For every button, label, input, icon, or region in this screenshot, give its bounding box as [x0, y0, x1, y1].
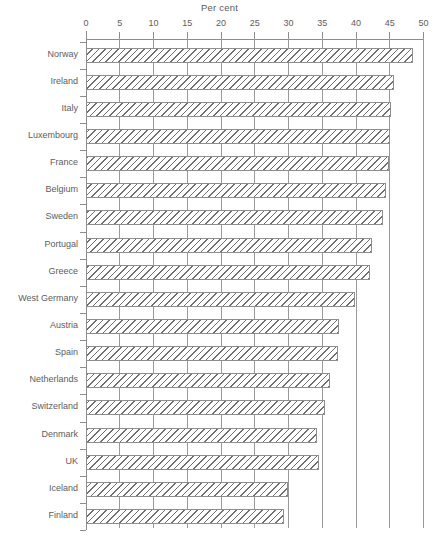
chart-row: Italy — [0, 96, 439, 123]
bar — [86, 102, 391, 117]
chart-row: Portugal — [0, 232, 439, 259]
bar — [86, 75, 394, 90]
bar — [86, 48, 413, 63]
chart-row: West Germany — [0, 286, 439, 313]
bar — [86, 455, 319, 470]
x-tick-label: 45 — [385, 18, 395, 28]
y-tick-mark — [80, 177, 86, 178]
category-label: Italy — [61, 103, 78, 113]
chart-row: Spain — [0, 340, 439, 367]
category-label: Netherlands — [29, 374, 78, 384]
bar — [86, 129, 390, 144]
y-tick-mark — [80, 340, 86, 341]
chart-row: Netherlands — [0, 367, 439, 394]
chart-row: Luxembourg — [0, 123, 439, 150]
category-label: Norway — [47, 49, 78, 59]
category-label: Ireland — [50, 76, 78, 86]
y-tick-mark — [80, 204, 86, 205]
x-tick-label: 0 — [83, 18, 88, 28]
y-tick-mark — [80, 367, 86, 368]
chart-row: Belgium — [0, 177, 439, 204]
category-label: Spain — [55, 347, 78, 357]
category-label: Luxembourg — [28, 130, 78, 140]
bar — [86, 482, 288, 497]
chart-row: Iceland — [0, 476, 439, 503]
y-tick-mark — [80, 232, 86, 233]
x-tick-label: 15 — [182, 18, 192, 28]
chart-row: France — [0, 150, 439, 177]
x-tick-label: 20 — [216, 18, 226, 28]
bar — [86, 346, 338, 361]
chart-row: Greece — [0, 259, 439, 286]
y-tick-mark — [80, 42, 86, 43]
category-label: Finland — [48, 510, 78, 520]
bar — [86, 156, 389, 171]
y-tick-mark — [80, 530, 86, 531]
x-tick-mark — [86, 32, 87, 39]
bar — [86, 183, 386, 198]
category-label: Austria — [50, 320, 78, 330]
x-tick-label: 40 — [351, 18, 361, 28]
bar — [86, 373, 330, 388]
bar — [86, 509, 284, 524]
bar — [86, 265, 370, 280]
y-tick-mark — [80, 259, 86, 260]
bar — [86, 210, 383, 225]
y-tick-mark — [80, 476, 86, 477]
category-label: Sweden — [45, 211, 78, 221]
chart-row: Switzerland — [0, 394, 439, 421]
chart-row: Norway — [0, 42, 439, 69]
chart-row: Austria — [0, 313, 439, 340]
bar — [86, 428, 317, 443]
x-tick-label: 30 — [283, 18, 293, 28]
y-tick-mark — [80, 422, 86, 423]
y-tick-mark — [80, 69, 86, 70]
bar-chart: Per cent 05101520253035404550NorwayIrela… — [0, 0, 439, 540]
chart-row: Denmark — [0, 422, 439, 449]
chart-row: Ireland — [0, 69, 439, 96]
x-tick-label: 25 — [250, 18, 260, 28]
chart-row: UK — [0, 449, 439, 476]
category-label: Denmark — [41, 429, 78, 439]
category-label: Belgium — [45, 184, 78, 194]
bar — [86, 238, 372, 253]
category-label: France — [50, 157, 78, 167]
bar — [86, 400, 325, 415]
category-label: UK — [65, 456, 78, 466]
category-label: Iceland — [49, 483, 78, 493]
y-tick-mark — [80, 96, 86, 97]
category-label: Portugal — [44, 239, 78, 249]
x-tick-label: 50 — [418, 18, 428, 28]
x-tick-label: 10 — [148, 18, 158, 28]
chart-row: Finland — [0, 503, 439, 530]
category-label: Greece — [48, 266, 78, 276]
y-tick-mark — [80, 449, 86, 450]
category-label: West Germany — [18, 293, 78, 303]
x-tick-label: 5 — [117, 18, 122, 28]
y-tick-mark — [80, 150, 86, 151]
category-label: Switzerland — [31, 401, 78, 411]
y-tick-mark — [80, 394, 86, 395]
chart-row: Sweden — [0, 204, 439, 231]
bar — [86, 319, 339, 334]
y-tick-mark — [80, 286, 86, 287]
plot-area: 05101520253035404550NorwayIrelandItalyLu… — [0, 0, 439, 540]
y-tick-mark — [80, 313, 86, 314]
bar — [86, 292, 355, 307]
x-tick-label: 35 — [317, 18, 327, 28]
y-tick-mark — [80, 123, 86, 124]
y-tick-mark — [80, 503, 86, 504]
